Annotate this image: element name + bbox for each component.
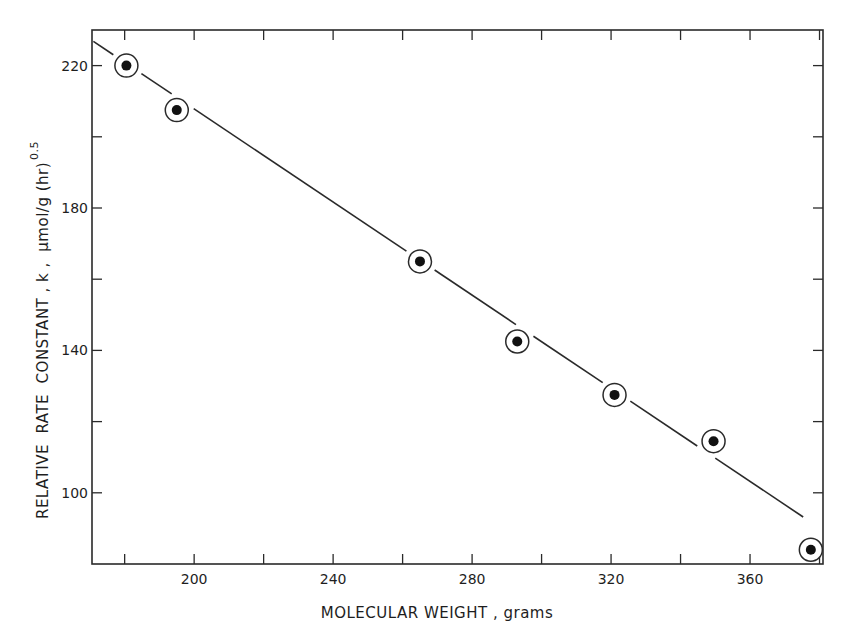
data-point-dot [806,545,816,555]
data-point-dot [172,105,182,115]
y-tick-label: 140 [61,342,88,358]
data-points [115,54,822,561]
fit-line-segment [194,109,407,252]
data-point [408,250,431,273]
scatter-plot: 200240280320360100140180220 MOLECULAR WE… [0,0,846,643]
data-point-dot [610,390,620,400]
x-tick-label: 280 [459,571,486,587]
data-point-dot [415,256,425,266]
fit-line-segment [533,336,602,382]
data-point [506,330,529,353]
x-tick-label: 200 [181,571,208,587]
y-axis-title-group: RELATIVE RATE CONSTANT , k , μmol/g (hr)… [28,141,52,519]
data-point-dot [121,61,131,71]
fit-line-segment [93,41,113,54]
x-tick-label: 240 [320,571,347,587]
data-point-dot [512,337,522,347]
data-point [702,430,725,453]
data-point [115,54,138,77]
data-point [799,538,822,561]
fit-line-segment [630,401,697,446]
y-tick-label: 180 [61,200,88,216]
fit-line-segment [141,74,171,94]
plot-border [92,30,823,564]
data-point [165,99,188,122]
x-axis-title: MOLECULAR WEIGHT , grams [321,604,554,622]
chart: 200240280320360100140180220 MOLECULAR WE… [0,0,846,643]
x-tick-label: 360 [737,571,764,587]
plot-frame [92,30,823,564]
y-axis-title-superscript: 0.5 [28,141,41,160]
fit-line-segment [715,458,803,517]
fit-line [93,41,803,517]
x-tick-label: 320 [598,571,625,587]
y-tick-label: 100 [61,485,88,501]
fit-line-segment [435,270,516,325]
tick-labels: 200240280320360100140180220 [61,58,763,587]
y-tick-label: 220 [61,58,88,74]
data-point [603,383,626,406]
data-point-dot [709,436,719,446]
axis-ticks [92,30,823,564]
y-axis-title: RELATIVE RATE CONSTANT , k , μmol/g (hr)… [28,141,52,519]
y-axis-title-text: RELATIVE RATE CONSTANT , k , μmol/g (hr) [34,162,52,519]
